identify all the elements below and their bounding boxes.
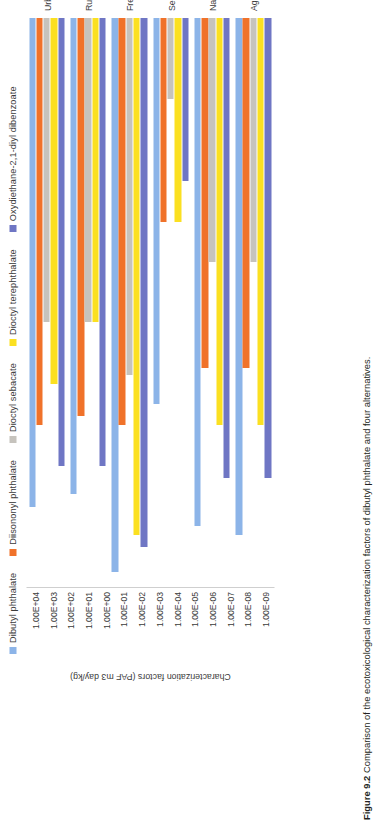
bar-row (133, 18, 139, 588)
legend-swatch-icon (9, 339, 16, 346)
bar-dioctyl-sebacate[interactable] (208, 18, 214, 262)
bar-dioctyl-terephthalate[interactable] (50, 18, 56, 384)
bar-row (58, 18, 64, 588)
bar-row (242, 18, 248, 588)
bar-group: Natural soil (191, 18, 232, 588)
bar-group: Urban air (26, 18, 67, 588)
bar-dioctyl-sebacate[interactable] (167, 18, 173, 99)
legend-item[interactable]: Dioctyl terephthalate (7, 249, 17, 346)
bar-row (194, 18, 200, 588)
bar-row (111, 18, 117, 588)
bar-dioctyl-sebacate[interactable] (84, 18, 90, 322)
bar-oxydiethane-2-1-diyl-dibenzoate[interactable] (264, 18, 270, 478)
axis-tick-label: 1.00E+00 (101, 587, 111, 629)
bar-dioctyl-sebacate[interactable] (250, 18, 256, 262)
bar-row (223, 18, 229, 588)
axis-tick-label: 1.00E-07 (225, 587, 235, 627)
bar-row (84, 18, 90, 588)
legend-swatch-icon (9, 549, 16, 556)
bar-row (118, 18, 124, 588)
bar-diisononyl-phthalate[interactable] (160, 18, 166, 222)
bar-oxydiethane-2-1-diyl-dibenzoate[interactable] (140, 18, 146, 547)
figure-number: Figure 9.2 (360, 776, 371, 820)
axis-tick-label: 1.00E+04 (30, 587, 40, 629)
bar-dioctyl-terephthalate[interactable] (174, 18, 180, 222)
legend-swatch-icon (9, 436, 16, 443)
figure-caption-text: Comparison of the ecotoxicological chara… (360, 357, 371, 773)
bar-diisononyl-phthalate[interactable] (242, 18, 248, 368)
bar-dioctyl-terephthalate[interactable] (92, 18, 98, 322)
axis-tick-label: 1.00E-02 (136, 587, 146, 627)
axis-tick-label: 1.00E+03 (48, 587, 58, 629)
bars-container: Urban airRural airFreshwaterSeawaterNatu… (26, 18, 274, 588)
bar-row (250, 18, 256, 588)
bar-row (160, 18, 166, 588)
bar-row (92, 18, 98, 588)
bar-row (99, 18, 105, 588)
legend-item[interactable]: Oxydiethane-2,1-diyl dibenzoate (7, 86, 17, 232)
bar-diisononyl-phthalate[interactable] (36, 18, 42, 425)
bar-group: Freshwater (109, 18, 150, 588)
bar-row (126, 18, 132, 588)
figure-caption: Figure 9.2 Comparison of the ecotoxicolo… (360, 160, 372, 820)
axis-tick-label: 1.00E-09 (260, 587, 270, 627)
bar-dioctyl-terephthalate[interactable] (133, 18, 139, 535)
bar-row (208, 18, 214, 588)
bar-row (50, 18, 56, 588)
figure-chart: Dibutyl phthalateDiisononyl phthalateDio… (0, 0, 340, 684)
bar-row (70, 18, 76, 588)
category-label: Rural air (83, 0, 93, 11)
bar-row (182, 18, 188, 588)
bar-dioctyl-terephthalate[interactable] (257, 18, 263, 425)
bar-row (36, 18, 42, 588)
legend-swatch-icon (9, 647, 16, 654)
bar-oxydiethane-2-1-diyl-dibenzoate[interactable] (58, 18, 64, 466)
legend-item[interactable]: Dibutyl phthalate (7, 573, 17, 654)
legend-swatch-icon (9, 225, 16, 232)
legend-item[interactable]: Dioctyl sebacate (7, 363, 17, 443)
bar-row (264, 18, 270, 588)
bar-dioctyl-sebacate[interactable] (126, 18, 132, 375)
chart-legend: Dibutyl phthalateDiisononyl phthalateDio… (2, 14, 22, 654)
bar-row (77, 18, 83, 588)
axis-tick-label: 1.00E+01 (83, 587, 93, 629)
bar-diisononyl-phthalate[interactable] (201, 18, 207, 368)
axis-tick-label: 1.00E-05 (189, 587, 199, 627)
bar-dibutyl-phthalate[interactable] (111, 18, 117, 572)
bar-dioctyl-sebacate[interactable] (43, 18, 49, 322)
bar-group: Seawater (150, 18, 191, 588)
bar-dibutyl-phthalate[interactable] (235, 18, 241, 535)
axis-tick-label: 1.00E-03 (154, 587, 164, 627)
category-label: Freshwater (124, 0, 134, 11)
legend-label: Diisononyl phthalate (7, 460, 17, 545)
bar-dibutyl-phthalate[interactable] (194, 18, 200, 526)
bar-dioctyl-terephthalate[interactable] (216, 18, 222, 425)
bar-row (153, 18, 159, 588)
bar-row (140, 18, 146, 588)
bar-diisononyl-phthalate[interactable] (77, 18, 83, 416)
bar-dibutyl-phthalate[interactable] (70, 18, 76, 494)
legend-label: Dioctyl terephthalate (7, 249, 17, 335)
plot-area: Urban airRural airFreshwaterSeawaterNatu… (26, 18, 274, 588)
bar-row (201, 18, 207, 588)
y-axis-title-text: Characterization factors (PAF m3 day/kg) (70, 672, 231, 682)
category-label: Agricultural soil (248, 0, 258, 11)
bar-row (167, 18, 173, 588)
bar-row (174, 18, 180, 588)
bar-oxydiethane-2-1-diyl-dibenzoate[interactable] (223, 18, 229, 478)
bar-dibutyl-phthalate[interactable] (29, 18, 35, 507)
axis-tick-label: 1.00E+02 (65, 587, 75, 629)
bar-diisononyl-phthalate[interactable] (118, 18, 124, 425)
bar-row (29, 18, 35, 588)
legend-label: Oxydiethane-2,1-diyl dibenzoate (7, 86, 17, 221)
bar-row (257, 18, 263, 588)
y-axis-title: Characterization factors (PAF m3 day/kg) (26, 670, 274, 684)
bar-row (216, 18, 222, 588)
legend-item[interactable]: Diisononyl phthalate (7, 460, 17, 556)
legend-label: Dioctyl sebacate (7, 363, 17, 432)
bar-oxydiethane-2-1-diyl-dibenzoate[interactable] (99, 18, 105, 466)
bar-dibutyl-phthalate[interactable] (153, 18, 159, 404)
bar-oxydiethane-2-1-diyl-dibenzoate[interactable] (182, 18, 188, 181)
bar-row (43, 18, 49, 588)
